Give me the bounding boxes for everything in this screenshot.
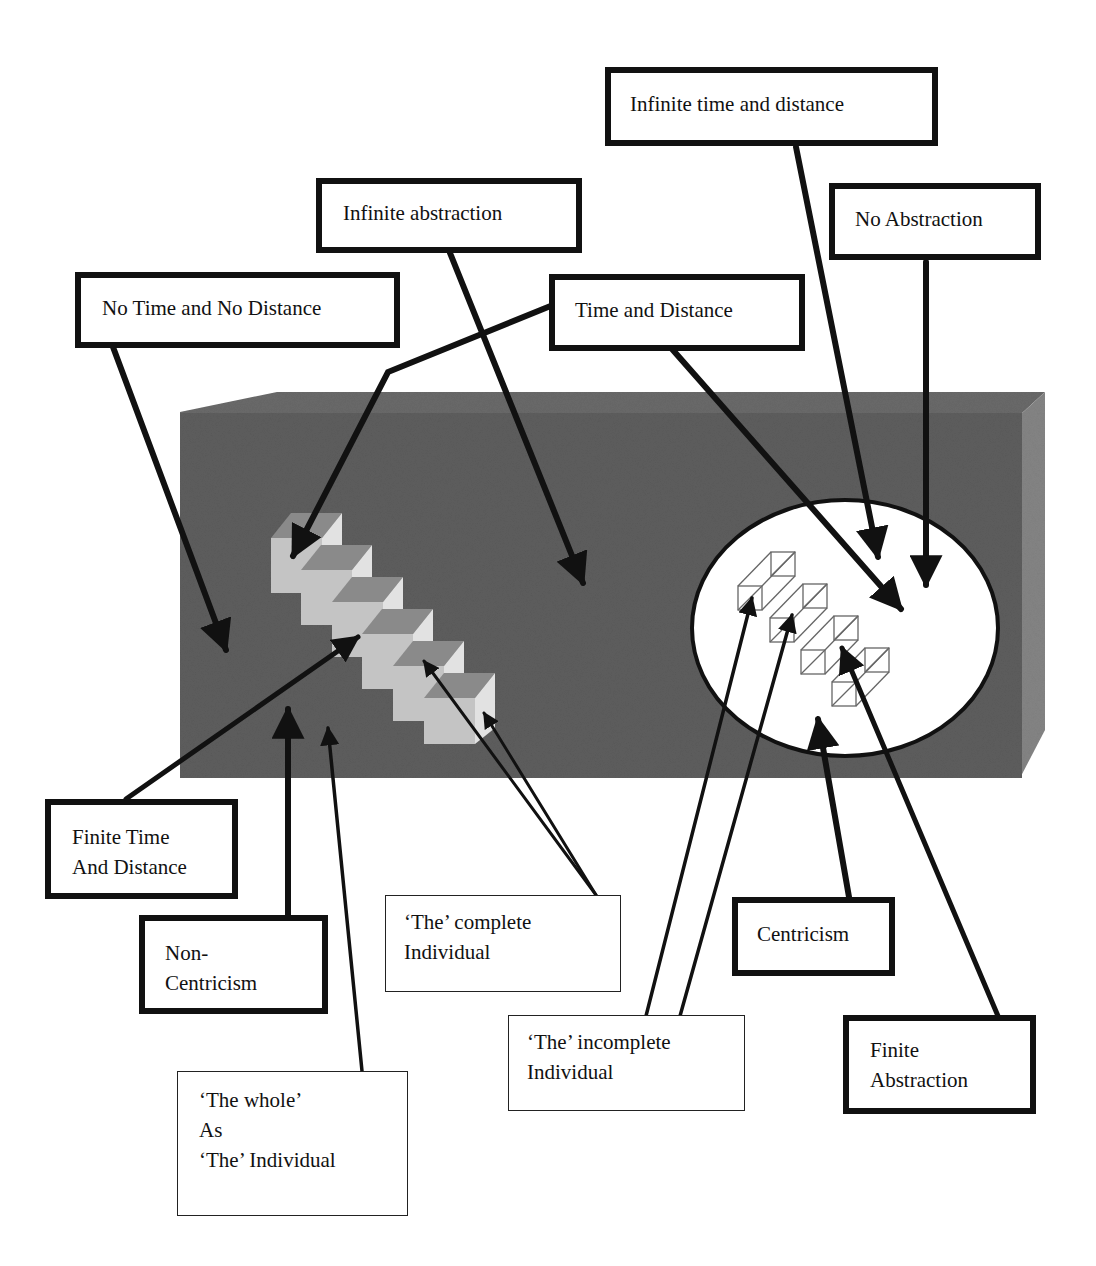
label-text: No Abstraction [855,204,1035,234]
label-incomplete-individual: ‘The’ incomplete Individual [508,1015,745,1111]
label-text: Infinite time and distance [630,89,932,119]
label-text: As [199,1115,407,1145]
centric-ellipse [692,500,998,756]
label-time-and-distance: Time and Distance [549,274,805,351]
label-text: Non- [165,938,322,968]
label-text: No Time and No Distance [102,293,394,323]
label-text: Finite Time [72,822,232,852]
label-text: Centricism [757,919,889,949]
label-infinite-time-and-distance: Infinite time and distance [605,67,938,146]
label-text: Individual [527,1057,744,1087]
label-text: Centricism [165,968,322,998]
label-text: Finite [870,1035,1030,1065]
label-complete-individual: ‘The’ complete Individual [385,895,621,992]
label-finite-abstraction: Finite Abstraction [843,1015,1036,1114]
label-whole-as-individual: ‘The whole’ As ‘The’ Individual [177,1071,408,1216]
label-text: ‘The’ incomplete [527,1027,744,1057]
label-text: ‘The’ Individual [199,1145,407,1175]
label-infinite-abstraction: Infinite abstraction [316,178,582,253]
label-text: ‘The’ complete [404,907,620,937]
arrow-whole-as-individual [328,728,362,1071]
diagram-canvas: Infinite time and distance Infinite abst… [0,0,1096,1266]
label-text: Abstraction [870,1065,1030,1095]
label-no-time-and-no-distance: No Time and No Distance [75,272,400,348]
label-text: Time and Distance [575,295,799,325]
label-text: And Distance [72,852,232,882]
label-no-abstraction: No Abstraction [829,183,1041,260]
label-non-centricism: Non- Centricism [139,915,328,1014]
block-side-face [1020,392,1045,778]
label-text: Infinite abstraction [343,198,576,228]
label-text: Individual [404,937,620,967]
label-centricism: Centricism [732,897,895,976]
label-finite-time-and-distance: Finite Time And Distance [45,799,238,899]
label-text: ‘The whole’ [199,1085,407,1115]
block-top-face [180,392,1045,415]
